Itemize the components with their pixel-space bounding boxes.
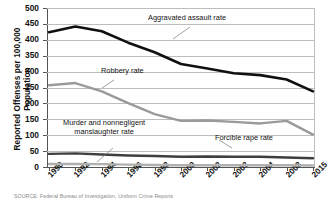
y-tick-label-350: 350: [13, 51, 39, 60]
y-tick-label-500: 500: [13, 4, 39, 13]
line-forcible-rape: [49, 153, 313, 158]
y-tick-0: [43, 167, 47, 168]
line-aggravated-assault: [49, 26, 313, 91]
annotation-aggravated-assault: Aggravated assault rate: [148, 14, 226, 23]
annotation-murder-line2: manslaughter rate: [63, 128, 145, 137]
y-tick-label-300: 300: [13, 67, 39, 76]
y-tick-label-250: 250: [13, 83, 39, 92]
line-murder: [49, 164, 313, 165]
leader-robbery: [102, 80, 114, 88]
y-tick-label-150: 150: [13, 115, 39, 124]
plot-area: 050100150200250300350400450500 199019921…: [47, 8, 315, 166]
series-lines: [47, 8, 315, 167]
annotation-robbery: Robbery rate: [101, 67, 144, 76]
y-tick-label-100: 100: [13, 131, 39, 140]
y-tick-label-50: 50: [13, 147, 39, 156]
annotation-forcible-rape: Forcible rape rate: [215, 134, 273, 143]
y-tick-label-200: 200: [13, 99, 39, 108]
y-tick-label-450: 450: [13, 19, 39, 28]
annotation-murder: Murder and nonnegligent manslaughter rat…: [63, 119, 145, 136]
source-note: SOURCE: Federal Bureau of Investigation,…: [14, 193, 173, 199]
leader-aggravated: [173, 27, 190, 39]
y-tick-label-400: 400: [13, 35, 39, 44]
y-tick-label-0: 0: [13, 163, 39, 172]
